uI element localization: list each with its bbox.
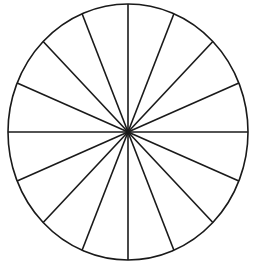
figure-root <box>0 0 254 267</box>
fraction-circle-diagram <box>0 0 254 267</box>
center-point <box>126 130 130 134</box>
